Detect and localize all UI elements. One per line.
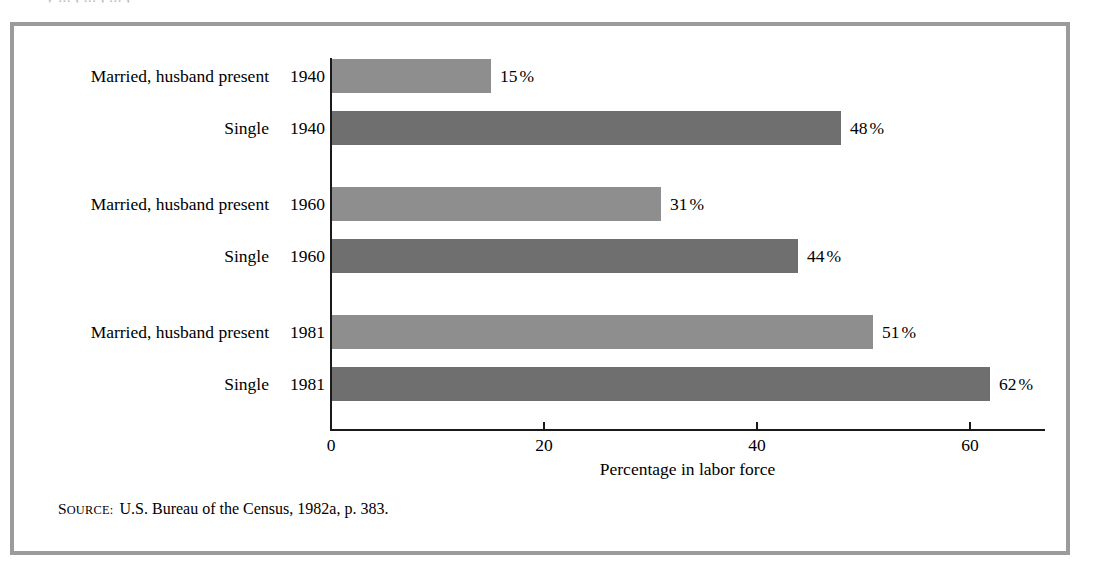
category-label: Single — [224, 118, 269, 138]
row-label-group: Married, husband present1940 — [40, 59, 325, 93]
bar-value-label: 15% — [491, 59, 534, 93]
row-label-group: Single1960 — [40, 239, 325, 273]
x-tick-label-40: 40 — [748, 435, 766, 456]
x-axis-title: Percentage in labor force — [330, 459, 1045, 480]
bar-married-1981[interactable] — [332, 315, 873, 349]
percent-symbol: % — [902, 322, 917, 342]
x-tick-label-20: 20 — [535, 435, 553, 456]
bar-value-label: 48% — [841, 111, 884, 145]
bar-married-1940[interactable] — [332, 59, 491, 93]
percent-symbol: % — [690, 194, 705, 214]
y-axis-line — [330, 58, 332, 430]
x-tick-0 — [330, 422, 332, 431]
year-label: 1960 — [279, 239, 325, 273]
year-label: 1940 — [279, 59, 325, 93]
category-label: Single — [224, 374, 269, 394]
bar-value-label: 44% — [798, 239, 841, 273]
percent-symbol: % — [1019, 374, 1034, 394]
source-label-s: S — [58, 500, 67, 517]
year-label: 1940 — [279, 111, 325, 145]
x-tick-label-0: 0 — [327, 435, 336, 456]
row-label-group: Single1940 — [40, 111, 325, 145]
category-label: Married, husband present — [91, 322, 269, 342]
bar-value-number: 31 — [670, 194, 688, 214]
source-note: SOURCE:U.S. Bureau of the Census, 1982a,… — [58, 500, 388, 518]
x-axis-line — [330, 429, 1045, 431]
category-label: Married, husband present — [91, 194, 269, 214]
year-label: 1960 — [279, 187, 325, 221]
bar-value-label: 31% — [661, 187, 704, 221]
row-label-group: Married, husband present1981 — [40, 315, 325, 349]
bar-value-label: 62% — [990, 367, 1033, 401]
x-tick-40 — [756, 422, 758, 431]
bar-single-1960[interactable] — [332, 239, 798, 273]
x-tick-20 — [543, 422, 545, 431]
bar-value-number: 62 — [999, 374, 1017, 394]
source-citation: U.S. Bureau of the Census, 1982a, p. 383… — [120, 500, 389, 517]
source-label-rest: OURCE: — [67, 503, 114, 517]
percent-symbol: % — [827, 246, 842, 266]
year-label: 1981 — [279, 367, 325, 401]
bar-single-1981[interactable] — [332, 367, 990, 401]
year-label: 1981 — [279, 315, 325, 349]
row-label-group: Single1981 — [40, 367, 325, 401]
percent-symbol: % — [520, 66, 535, 86]
bar-single-1940[interactable] — [332, 111, 841, 145]
x-tick-60 — [969, 422, 971, 431]
row-label-group: Married, husband present1960 — [40, 187, 325, 221]
x-tick-label-60: 60 — [961, 435, 979, 456]
bar-value-number: 15 — [500, 66, 518, 86]
bar-value-number: 44 — [807, 246, 825, 266]
category-label: Single — [224, 246, 269, 266]
chart-plot-area: Married, husband present1940 15% Single1… — [0, 0, 1099, 576]
bar-value-number: 48 — [850, 118, 868, 138]
bar-value-number: 51 — [882, 322, 900, 342]
bar-value-label: 51% — [873, 315, 916, 349]
percent-symbol: % — [870, 118, 885, 138]
category-label: Married, husband present — [91, 66, 269, 86]
bar-married-1960[interactable] — [332, 187, 661, 221]
